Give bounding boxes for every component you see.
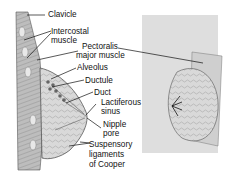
rib	[30, 115, 36, 125]
label-pectoralis-2: major muscle	[76, 51, 125, 60]
label-intercostal: Intercostal	[51, 27, 89, 36]
label-nipple-pore-2: pore	[103, 129, 119, 138]
label-alveolus: Alveolus	[77, 63, 108, 72]
anatomy-diagram: Clavicle Intercostal muscle Pectoralis m…	[0, 0, 235, 175]
rib	[19, 27, 25, 37]
label-duct: Duct	[94, 88, 111, 97]
label-ductule: Ductule	[85, 76, 113, 85]
label-pectoralis: Pectoralis	[82, 42, 118, 51]
rib	[22, 47, 28, 57]
label-suspensory: Suspensory	[89, 140, 132, 149]
label-nipple-pore: Nipple	[103, 120, 126, 129]
label-lactiferous-sinus-2: sinus	[101, 107, 120, 116]
label-intercostal-2: muscle	[51, 36, 77, 45]
frontal-cutaway	[142, 15, 222, 153]
rib	[25, 67, 31, 77]
label-suspensory-2: ligaments	[89, 150, 124, 159]
label-lactiferous-sinus: Lactiferous	[101, 98, 141, 107]
label-clavicle: Clavicle	[48, 10, 77, 19]
rib	[30, 140, 36, 150]
label-suspensory-3: of Cooper	[89, 160, 125, 169]
